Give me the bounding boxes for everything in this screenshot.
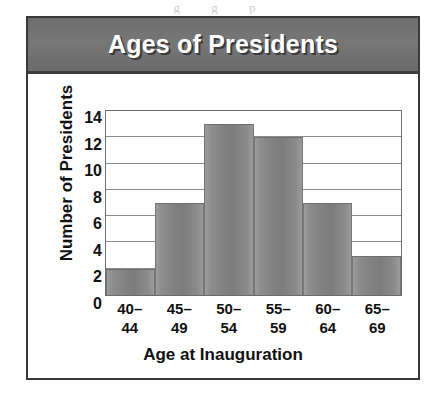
plot-area — [105, 110, 402, 296]
x-axis-tick-line: 50– — [204, 300, 254, 319]
x-axis-title: Age at Inauguration — [28, 345, 418, 365]
x-axis-tick: 50–54 — [204, 300, 254, 338]
x-axis-tick: 65–69 — [353, 300, 403, 338]
x-axis-tick: 45–49 — [155, 300, 205, 338]
chart-body: Number of Presidents 02468101214 40–4445… — [28, 77, 418, 379]
x-axis-tick-line: 44 — [105, 319, 155, 338]
bar — [204, 124, 253, 295]
x-axis-tick: 60–64 — [303, 300, 353, 338]
scan-artifact-text: g g p — [0, 0, 443, 14]
x-axis-tick-line: 45– — [155, 300, 205, 319]
x-axis-tick-line: 54 — [204, 319, 254, 338]
bar — [155, 203, 204, 295]
bar — [352, 256, 401, 295]
x-axis-tick-labels: 40–4445–4950–5455–5960–6465–69 — [105, 300, 402, 338]
x-axis-tick: 55–59 — [254, 300, 304, 338]
x-axis-tick: 40–44 — [105, 300, 155, 338]
y-axis-tick-labels: 02468101214 — [70, 110, 102, 296]
x-axis-tick-line: 59 — [254, 319, 304, 338]
chart-title-banner: Ages of Presidents — [28, 18, 418, 74]
bar-series — [106, 111, 401, 295]
bar — [254, 137, 303, 295]
x-axis-tick-line: 55– — [254, 300, 304, 319]
chart-figure: Ages of Presidents Number of Presidents … — [26, 16, 420, 380]
bar — [303, 203, 352, 295]
x-axis-tick-line: 64 — [303, 319, 353, 338]
x-axis-tick-line: 40– — [105, 300, 155, 319]
page-title: Ages of Presidents — [108, 30, 338, 59]
x-axis-tick-line: 69 — [353, 319, 403, 338]
x-axis-tick-line: 65– — [353, 300, 403, 319]
x-axis-tick-line: 60– — [303, 300, 353, 319]
x-axis-tick-line: 49 — [155, 319, 205, 338]
bar — [106, 269, 155, 295]
